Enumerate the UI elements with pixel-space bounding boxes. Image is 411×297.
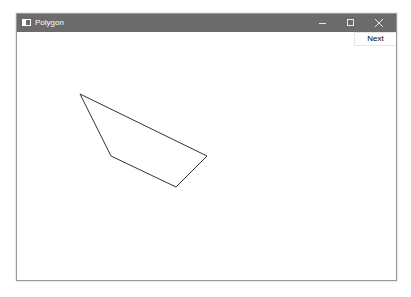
polygon-shape — [0, 0, 411, 297]
